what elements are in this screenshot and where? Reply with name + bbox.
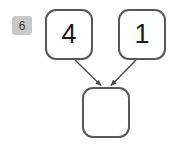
diagram-canvas: 6 4 1 [0,0,176,152]
node-left-label: 4 [61,21,76,48]
node-right-label: 1 [134,21,149,48]
step-badge: 6 [12,16,32,35]
node-right[interactable]: 1 [118,9,166,60]
step-badge-label: 6 [19,20,26,32]
edge-right-to-out [111,60,136,86]
node-output[interactable] [82,87,130,138]
node-left[interactable]: 4 [45,9,93,60]
edge-left-to-out [75,60,101,86]
